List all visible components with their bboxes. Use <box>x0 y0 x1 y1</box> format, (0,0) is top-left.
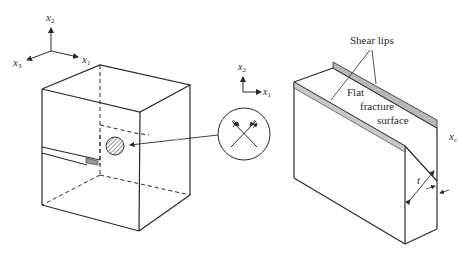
surface-label: surface <box>377 115 409 126</box>
fracture-diagram <box>0 0 469 259</box>
x2-axis-label: x2 <box>46 12 54 25</box>
fracture-label: fracture <box>360 101 394 112</box>
thickness-dimension <box>410 171 434 200</box>
shear-lips-label: Shear lips <box>350 35 394 46</box>
flat-label: Flat <box>347 87 364 98</box>
inset-x2-label: x2 <box>238 62 246 74</box>
inset-magnified <box>218 108 270 160</box>
x3-axis-label: x3 <box>13 57 21 70</box>
axes-triad-inset <box>243 77 261 92</box>
thickness-label: t <box>417 175 420 186</box>
axes-triad-left <box>27 28 78 60</box>
xc-label: xc <box>449 131 457 144</box>
plastic-zone <box>106 137 124 155</box>
inset-x1-label: x1 <box>263 87 271 99</box>
x1-axis-label: x1 <box>82 54 90 67</box>
